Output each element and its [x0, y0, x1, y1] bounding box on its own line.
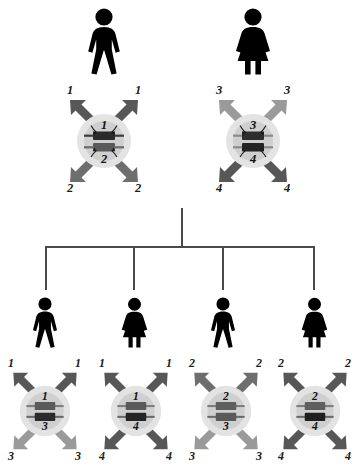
father-cell-label-top-right: 1 — [135, 84, 141, 97]
father-cell-inner-bottom-label: 2 — [100, 152, 107, 166]
child-3-cell-label-top-right: 2 — [256, 357, 262, 369]
mother-cell-label-bottom-left: 4 — [216, 182, 222, 195]
child-4-cell-inner-top-label: 2 — [311, 390, 318, 403]
child-2-cell-label-bottom-left: 4 — [99, 450, 105, 462]
child-4-cell: 2 4 2 2 4 4 — [274, 365, 356, 457]
child-1-cell-label-bottom-left: 3 — [8, 450, 14, 462]
child-3-cell-inner-top-label: 2 — [222, 390, 229, 403]
child-4-cell-label-top-right: 2 — [345, 357, 351, 369]
pedigree-drop-line-1 — [45, 246, 47, 290]
child-3-cell-inner-bottom-label: 3 — [222, 420, 229, 433]
pedigree-drop-line-3 — [222, 246, 224, 290]
child-4-figure — [298, 296, 331, 350]
child-4-cell-label-top-left: 2 — [278, 357, 284, 369]
father-cell-label-bottom-left: 2 — [67, 182, 73, 195]
child-1-cell-inner-bottom-label: 3 — [41, 420, 48, 433]
pedigree-sibship-line — [45, 246, 314, 248]
child-2-cell-inner-top-label: 1 — [133, 390, 139, 403]
father-figure — [83, 8, 125, 76]
father-cell-label-bottom-right: 2 — [135, 182, 141, 195]
father-cell-inner-top-label: 1 — [101, 118, 107, 132]
child-2-cell-label-bottom-right: 4 — [166, 450, 172, 462]
mother-cell-label-top-left: 3 — [216, 84, 222, 97]
mother-cell-label-bottom-right: 4 — [284, 182, 290, 195]
father-cell: 1 2 1 1 2 2 — [60, 92, 148, 190]
child-4-cell-inner-bottom-label: 4 — [311, 420, 318, 433]
child-4-cell-label-bottom-left: 4 — [278, 450, 284, 462]
child-3-cell: 2 3 2 2 3 3 — [185, 365, 267, 457]
child-3-cell-label-bottom-right: 3 — [256, 450, 262, 462]
pedigree-drop-line-2 — [133, 246, 135, 290]
child-2-cell-inner-bottom-label: 4 — [132, 420, 139, 433]
pedigree-trunk-line — [181, 208, 183, 247]
diagram-canvas: 1 2 1 1 2 2 — [0, 0, 363, 476]
child-2-cell-label-top-right: 1 — [166, 357, 172, 369]
child-2-figure — [118, 296, 151, 350]
child-4-cell-label-bottom-right: 4 — [345, 450, 351, 462]
mother-cell: 3 4 3 3 4 4 — [209, 92, 297, 190]
child-3-cell-label-top-left: 2 — [189, 357, 195, 369]
mother-figure — [231, 8, 275, 76]
child-1-cell-label-top-right: 1 — [75, 357, 81, 369]
pedigree-drop-line-4 — [313, 246, 315, 290]
child-1-figure — [29, 296, 61, 350]
child-2-cell-label-top-left: 1 — [99, 357, 105, 369]
child-3-figure — [207, 296, 239, 350]
child-2-cell: 1 4 1 1 4 4 — [95, 365, 177, 457]
mother-cell-inner-bottom-label: 4 — [249, 152, 256, 166]
child-3-cell-label-bottom-left: 3 — [189, 450, 195, 462]
father-cell-label-top-left: 1 — [67, 84, 73, 97]
child-1-cell: 1 3 1 1 3 3 — [4, 365, 86, 457]
mother-cell-label-top-right: 3 — [284, 84, 290, 97]
child-1-cell-label-bottom-right: 3 — [75, 450, 81, 462]
child-1-cell-label-top-left: 1 — [8, 357, 14, 369]
mother-cell-inner-top-label: 3 — [249, 118, 256, 132]
child-1-cell-inner-top-label: 1 — [42, 390, 48, 403]
